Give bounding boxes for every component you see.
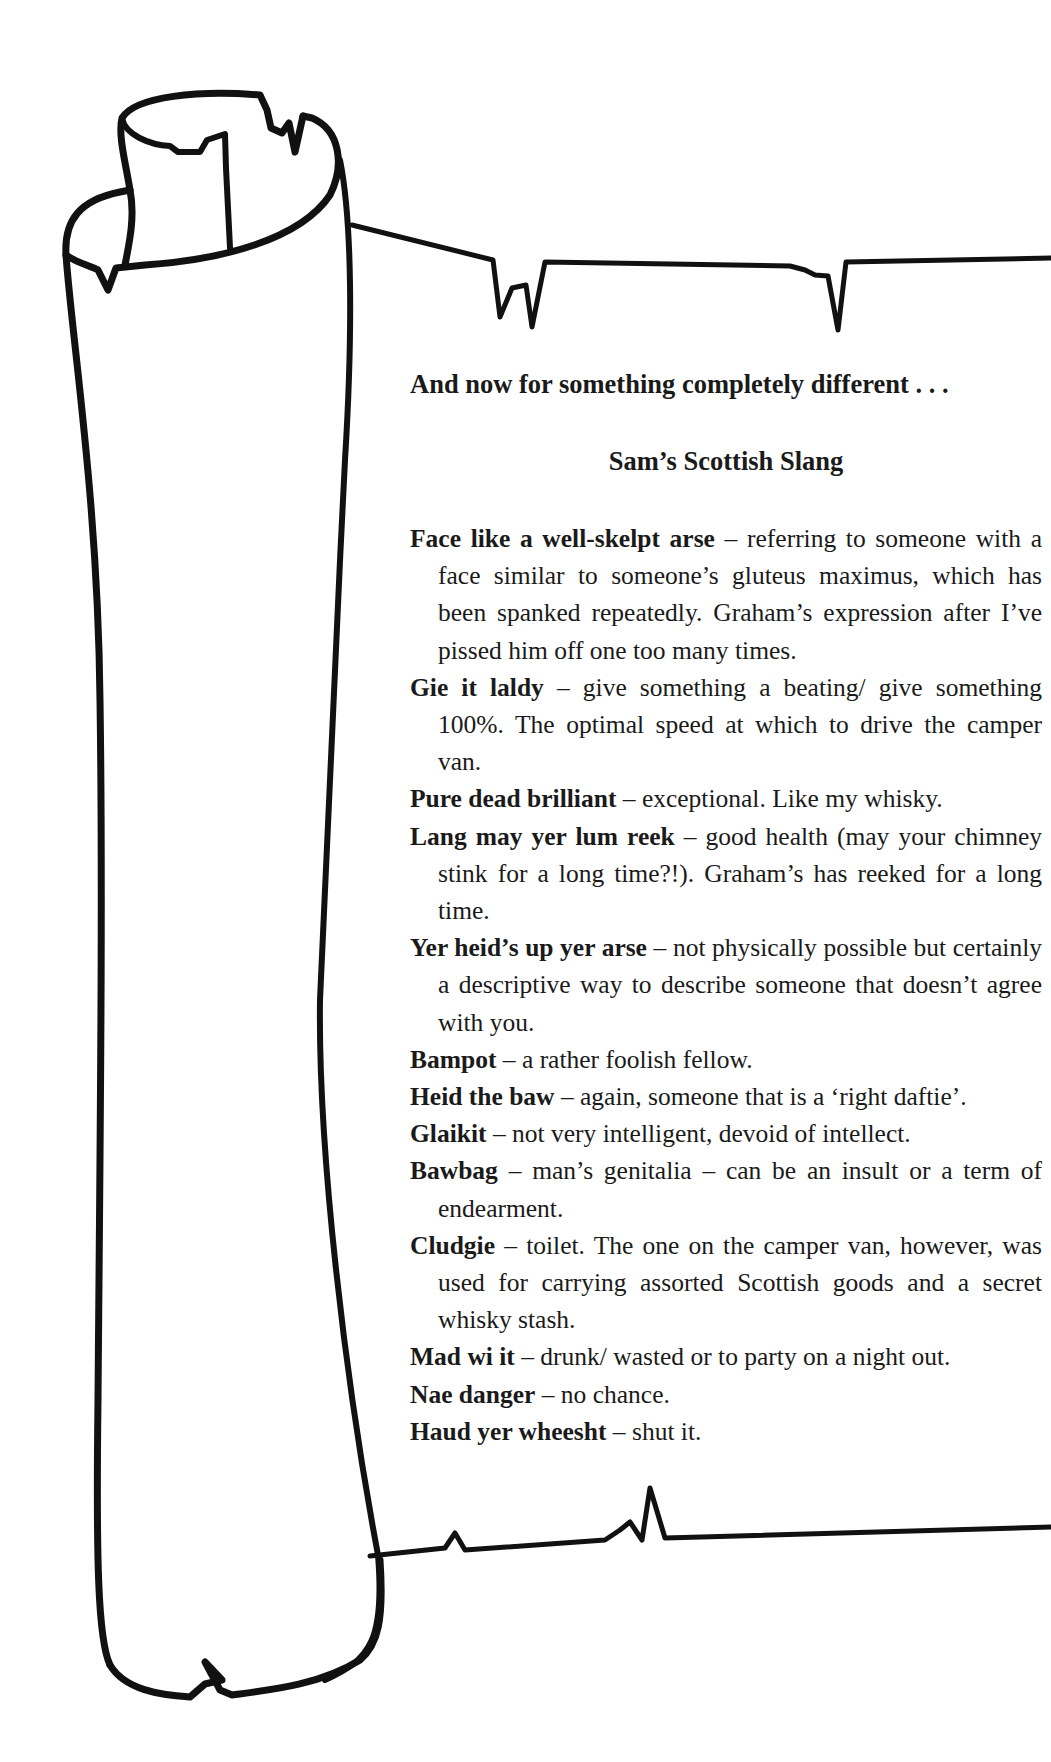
glossary-entry: Bawbag – man’s genitalia – can be an ins…: [410, 1152, 1042, 1226]
entry-separator: –: [715, 524, 747, 553]
glossary-entry: Lang may yer lum reek – good health (may…: [410, 818, 1042, 930]
entry-definition: a rather foolish fellow.: [522, 1045, 753, 1074]
slang-glossary: And now for something completely differe…: [410, 366, 1042, 1450]
entry-term: Gie it laldy: [410, 673, 544, 702]
entry-term: Yer heid’s up yer arse: [410, 933, 647, 962]
scroll-inner-flap: [122, 118, 230, 248]
slang-entries-list: Face like a well-skelpt arse – referring…: [410, 520, 1042, 1450]
scroll-bottom-cap: [110, 1560, 381, 1697]
scroll-sheet-top-edge: [352, 225, 1051, 330]
entry-definition: no chance.: [561, 1380, 670, 1409]
entry-term: Heid the baw: [410, 1082, 555, 1111]
entry-definition: again, someone that is a ‘right daftie’.: [580, 1082, 967, 1111]
entry-term: Nae danger: [410, 1380, 535, 1409]
entry-term: Bampot: [410, 1045, 496, 1074]
entry-definition: toilet. The one on the camper van, howev…: [438, 1231, 1042, 1334]
entry-separator: –: [487, 1119, 513, 1148]
page-heading: And now for something completely differe…: [410, 366, 1042, 403]
glossary-entry: Gie it laldy – give something a beating/…: [410, 669, 1042, 781]
glossary-entry: Bampot – a rather foolish fellow.: [410, 1041, 1042, 1078]
entry-separator: –: [496, 1045, 522, 1074]
entry-separator: –: [675, 822, 706, 851]
entry-term: Mad wi it: [410, 1342, 515, 1371]
entry-term: Haud yer wheesht: [410, 1417, 606, 1446]
glossary-entry: Yer heid’s up yer arse – not physically …: [410, 929, 1042, 1041]
entry-term: Face like a well-skelpt arse: [410, 524, 715, 553]
entry-term: Bawbag: [410, 1156, 498, 1185]
entry-separator: –: [647, 933, 673, 962]
entry-term: Cludgie: [410, 1231, 495, 1260]
entry-definition: not very intelligent, devoid of intellec…: [512, 1119, 911, 1148]
entry-separator: –: [515, 1342, 541, 1371]
section-title: Sam’s Scottish Slang: [410, 443, 1042, 480]
entry-term: Lang may yer lum reek: [410, 822, 675, 851]
entry-separator: –: [535, 1380, 561, 1409]
entry-separator: –: [498, 1156, 532, 1185]
scroll-sheet-bottom-edge: [370, 1488, 1051, 1556]
glossary-entry: Pure dead brilliant – exceptional. Like …: [410, 780, 1042, 817]
glossary-entry: Heid the baw – again, someone that is a …: [410, 1078, 1042, 1115]
entry-term: Pure dead brilliant: [410, 784, 616, 813]
glossary-entry: Face like a well-skelpt arse – referring…: [410, 520, 1042, 669]
entry-term: Glaikit: [410, 1119, 487, 1148]
glossary-entry: Glaikit – not very intelligent, devoid o…: [410, 1115, 1042, 1152]
glossary-entry: Nae danger – no chance.: [410, 1376, 1042, 1413]
entry-separator: –: [544, 673, 583, 702]
glossary-entry: Mad wi it – drunk/ wasted or to party on…: [410, 1338, 1042, 1375]
entry-separator: –: [616, 784, 642, 813]
glossary-entry: Cludgie – toilet. The one on the camper …: [410, 1227, 1042, 1339]
glossary-entry: Haud yer wheesht – shut it.: [410, 1413, 1042, 1450]
entry-separator: –: [555, 1082, 581, 1111]
entry-definition: exceptional. Like my whisky.: [642, 784, 943, 813]
entry-separator: –: [495, 1231, 526, 1260]
scroll-column-left: [66, 255, 110, 1665]
scroll-column-right: [320, 160, 380, 1680]
entry-separator: –: [606, 1417, 632, 1446]
entry-definition: shut it.: [632, 1417, 701, 1446]
entry-definition: drunk/ wasted or to party on a night out…: [540, 1342, 950, 1371]
